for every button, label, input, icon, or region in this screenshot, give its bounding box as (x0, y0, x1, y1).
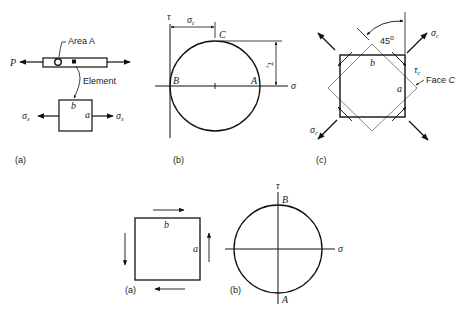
caption-bottom-b: (b) (230, 285, 241, 295)
sigma-axis-label: σ (291, 80, 297, 91)
caption-top-b: (b) (173, 155, 184, 165)
area-label: Area A (68, 36, 95, 46)
sigma-c-top-label: σc (431, 27, 439, 39)
shear-arrow-tr (392, 52, 406, 66)
tau-c-label: τc (414, 64, 421, 76)
tau-c-label: τc (265, 62, 277, 69)
caption-top-a: (a) (15, 155, 26, 165)
load-label: P (9, 57, 16, 68)
caption-bottom-a: (a) (125, 285, 136, 295)
sigma-axis-label: σ (338, 243, 344, 254)
top-panel-b: τ σ σc τc C B A (b) (155, 11, 297, 165)
sigma-c-bottom-label: σc (310, 124, 318, 136)
tau-axis-label: τ (167, 11, 171, 22)
face-c-label: Face C (426, 75, 456, 85)
area-leader (59, 42, 66, 57)
sigma-arrow-tl (318, 33, 335, 50)
point-b: B (173, 75, 179, 86)
face-a-label: a (85, 109, 90, 120)
tau-axis-label: τ (276, 180, 280, 191)
bottom-panel-a: b a (a) (125, 210, 209, 295)
point-c: C (219, 29, 226, 40)
sigma-arrow-br (409, 121, 428, 140)
element-marker (72, 60, 76, 64)
top-panel-c: 45o b a σc σc τc Face C (c) (310, 12, 456, 165)
face-a-label: a (193, 243, 198, 254)
angle-arc (367, 21, 403, 35)
face-b-label: b (164, 219, 169, 230)
top-panel-a: P Area A Element b a σx σx (a) (9, 36, 130, 165)
area-circle-icon (55, 59, 62, 66)
sigma-arrow-tr (407, 33, 427, 53)
face-c-leader (416, 80, 424, 85)
caption-top-c: (c) (316, 155, 327, 165)
element-leader (74, 66, 80, 98)
point-a: A (281, 294, 289, 305)
angle-label: 45o (380, 34, 394, 46)
element-label: Element (83, 76, 117, 86)
diagonal-reference (357, 28, 369, 40)
sigma-arrow-bl (318, 120, 337, 139)
diagram-canvas: P Area A Element b a σx σx (a) τ σ (0, 0, 465, 312)
face-a-label: a (397, 83, 402, 94)
face-b-label: b (370, 57, 375, 68)
point-a: A (250, 75, 258, 86)
point-b: B (282, 194, 288, 205)
bottom-panel-b: τ σ B A (b) (225, 180, 344, 305)
sigma-x-right: σx (116, 110, 124, 122)
sigma-x-left: σx (22, 110, 30, 122)
sigma-c-label: σc (187, 14, 195, 26)
shear-arrow-br (392, 107, 406, 121)
face-b-label: b (71, 100, 76, 111)
